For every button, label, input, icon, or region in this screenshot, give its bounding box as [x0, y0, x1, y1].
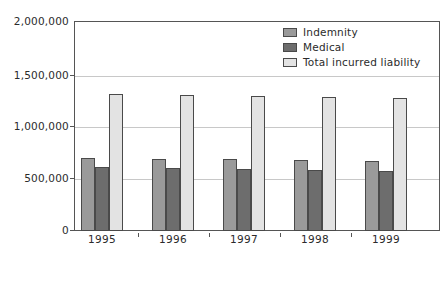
- y-tick-label-1500000: 1,500,000: [0, 69, 74, 81]
- legend-label-medical: Medical: [303, 41, 345, 53]
- legend-label-indemnity: Indemnity: [303, 26, 358, 38]
- bar-medical-1997: [237, 169, 251, 231]
- legend-swatch-indemnity-icon: [283, 28, 297, 37]
- bar-group-1996: [152, 21, 194, 231]
- y-tick-label-500000: 500,000: [0, 172, 74, 184]
- bar-medical-1995: [95, 167, 109, 231]
- x-tick-mark-1996: [138, 233, 139, 237]
- y-tick-label-0: 0: [0, 224, 74, 236]
- bar-total-1995: [109, 94, 123, 231]
- bar-group-1997: [223, 21, 265, 231]
- legend-item-indemnity: Indemnity: [283, 26, 420, 38]
- legend-item-medical: Medical: [283, 41, 420, 53]
- bar-indemnity-1995: [81, 158, 95, 232]
- x-tick-label-1999: 1999: [356, 233, 416, 245]
- legend-swatch-medical-icon: [283, 43, 297, 52]
- bar-total-1998: [322, 97, 336, 231]
- bar-total-1999: [393, 98, 407, 231]
- bar-medical-1998: [308, 170, 322, 231]
- x-axis: 19951996199719981999: [74, 233, 440, 253]
- x-tick-label-1997: 1997: [214, 233, 274, 245]
- x-tick-label-1996: 1996: [143, 233, 203, 245]
- y-tick-label-2000000: 2,000,000: [0, 15, 74, 27]
- bar-total-1997: [251, 96, 265, 231]
- bar-medical-1999: [379, 171, 393, 231]
- legend-label-total: Total incurred liability: [303, 56, 420, 68]
- legend-swatch-total-icon: [283, 58, 297, 67]
- bar-total-1996: [180, 95, 194, 231]
- chart-legend: Indemnity Medical Total incurred liabili…: [283, 26, 420, 68]
- bar-indemnity-1997: [223, 159, 237, 231]
- bar-medical-1996: [166, 168, 180, 231]
- x-tick-label-1995: 1995: [72, 233, 132, 245]
- bar-indemnity-1998: [294, 160, 308, 231]
- bar-chart: 2,000,000 1,500,000 1,000,000 500,000 0 …: [0, 0, 447, 286]
- y-tick-label-1000000: 1,000,000: [0, 120, 74, 132]
- bar-indemnity-1999: [365, 161, 379, 231]
- x-tick-mark-1997: [209, 233, 210, 237]
- x-tick-label-1998: 1998: [285, 233, 345, 245]
- legend-item-total: Total incurred liability: [283, 56, 420, 68]
- x-tick-mark-1998: [280, 233, 281, 237]
- bar-group-1995: [81, 21, 123, 231]
- bar-indemnity-1996: [152, 159, 166, 231]
- x-tick-mark-1999: [351, 233, 352, 237]
